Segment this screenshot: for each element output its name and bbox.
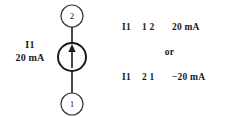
netlist-line-2-nodes: 2 1 [142,72,172,82]
netlist-line-1-device: I1 [122,22,142,32]
netlist-line-1-value: 20 mA [172,22,200,32]
source-name-label: I1 [4,39,56,52]
figure-current-source-netlist: 2 1 I1 20 mA I11 220 mA or I12 1−20 mA [0,0,226,117]
circuit-schematic: 2 1 I1 20 mA [0,0,113,117]
netlist-line-2-value: −20 mA [172,72,205,82]
netlist-line-2: I12 1−20 mA [113,72,226,82]
source-annotation: I1 20 mA [4,39,56,64]
node-label-bottom: 1 [70,99,75,109]
netlist-separator: or [113,47,226,57]
source-value-label: 20 mA [4,52,56,65]
netlist-line-1: I11 220 mA [113,22,226,32]
netlist-line-1-nodes: 1 2 [142,22,172,32]
netlist-line-2-device: I1 [122,72,142,82]
netlist-block: I11 220 mA or I12 1−20 mA [113,0,226,117]
node-label-top: 2 [70,11,75,21]
netlist-separator-word: or [165,47,174,57]
